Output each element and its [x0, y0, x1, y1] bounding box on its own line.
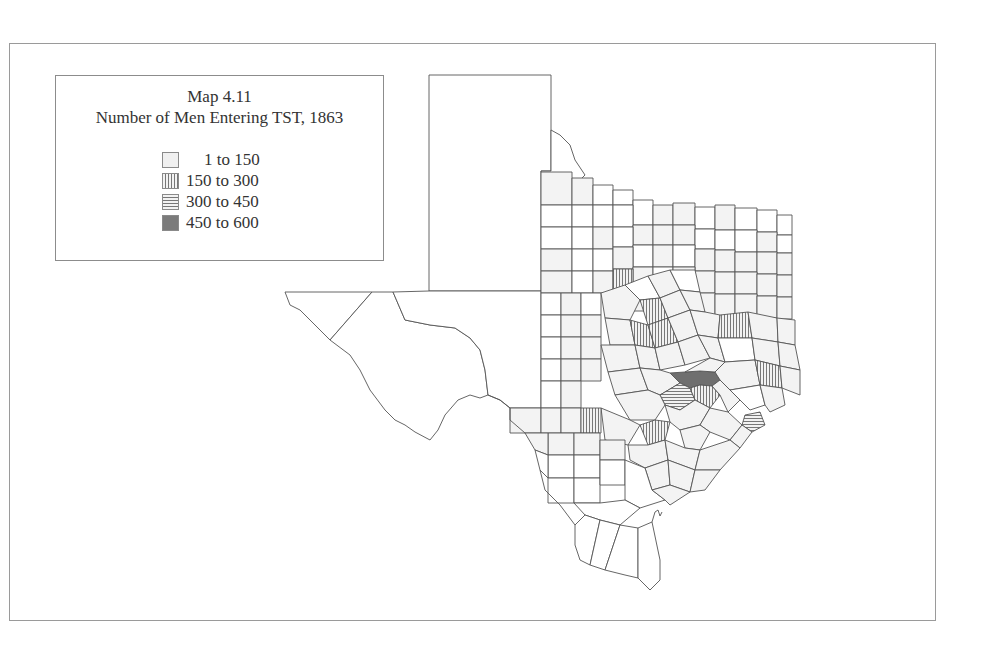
- legend-item-450-to-600: 450 to 600: [162, 213, 362, 234]
- panhandle-region: [429, 75, 551, 291]
- map-subtitle: Number of Men Entering TST, 1863: [56, 108, 383, 128]
- legend-items: 1 to 150 150 to 300 300 to 450 450 to 60…: [162, 150, 362, 234]
- map-legend: Map 4.11 Number of Men Entering TST, 186…: [55, 75, 384, 261]
- legend-label: 450 to 600: [186, 213, 259, 233]
- vertical-hatch-swatch-icon: [162, 173, 179, 189]
- horizontal-hatch-swatch-icon: [162, 194, 179, 210]
- legend-label: 300 to 450: [186, 192, 259, 212]
- dark-fill-swatch-icon: [162, 215, 179, 231]
- map-title: Map 4.11: [56, 87, 383, 107]
- legend-label: 1 to 150: [204, 150, 260, 170]
- light-fill-swatch-icon: [162, 152, 179, 168]
- legend-item-1-to-150: 1 to 150: [162, 150, 362, 171]
- legend-item-150-to-300: 150 to 300: [162, 171, 362, 192]
- legend-label: 150 to 300: [186, 171, 259, 191]
- legend-item-300-to-450: 300 to 450: [162, 192, 362, 213]
